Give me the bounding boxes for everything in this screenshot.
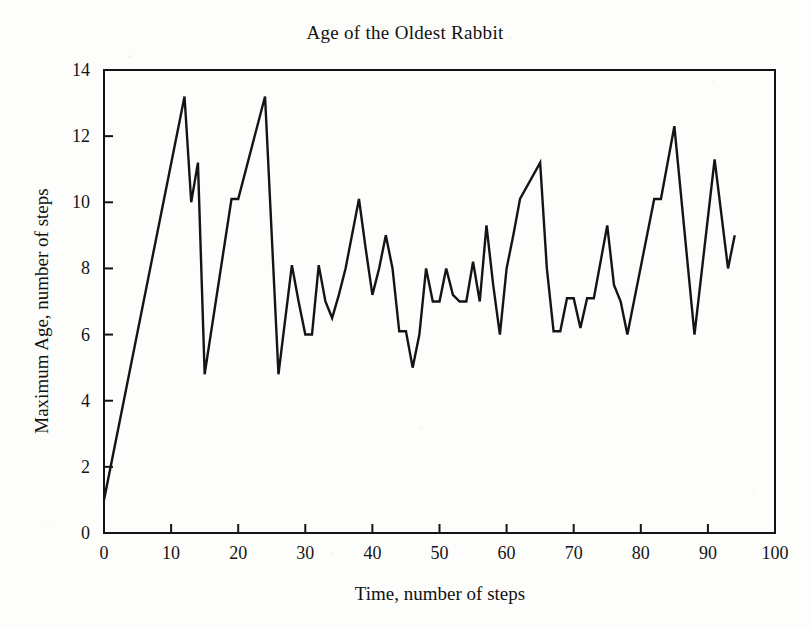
y-tick-label-12: 12 <box>72 126 90 146</box>
x-tick-label-60: 60 <box>498 543 516 563</box>
y-tick-label-10: 10 <box>72 192 90 212</box>
chart-page: Age of the Oldest Rabbit Maximum Age, nu… <box>0 0 810 629</box>
data-series-group <box>104 96 735 499</box>
y-tick-label-2: 2 <box>81 457 90 477</box>
data-line-maximum-age <box>104 96 735 499</box>
x-axis-ticks <box>104 524 775 533</box>
y-tick-label-4: 4 <box>81 391 90 411</box>
x-tick-label-10: 10 <box>162 543 180 563</box>
y-axis-tick-labels: 02468101214 <box>72 60 90 543</box>
x-axis-tick-labels: 0102030405060708090100 <box>100 543 789 563</box>
y-tick-label-0: 0 <box>81 523 90 543</box>
x-tick-label-40: 40 <box>363 543 381 563</box>
x-tick-label-0: 0 <box>100 543 109 563</box>
x-tick-label-70: 70 <box>565 543 583 563</box>
y-tick-label-6: 6 <box>81 325 90 345</box>
x-tick-label-30: 30 <box>296 543 314 563</box>
x-tick-label-80: 80 <box>632 543 650 563</box>
y-tick-label-8: 8 <box>81 258 90 278</box>
x-tick-label-90: 90 <box>699 543 717 563</box>
x-tick-label-20: 20 <box>229 543 247 563</box>
y-tick-label-14: 14 <box>72 60 90 80</box>
x-tick-label-100: 100 <box>762 543 789 563</box>
x-tick-label-50: 50 <box>431 543 449 563</box>
plot-area: 0102030405060708090100 02468101214 <box>0 0 810 629</box>
